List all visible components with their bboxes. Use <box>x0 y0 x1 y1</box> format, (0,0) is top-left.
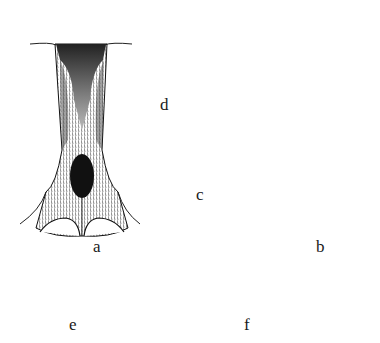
figure-a <box>20 43 140 236</box>
morphology-plate <box>0 0 380 343</box>
figure-label-d: d <box>160 96 169 113</box>
figure-label-c: c <box>196 186 204 203</box>
figure-label-e: e <box>69 316 77 333</box>
figure-label-a: a <box>93 238 101 255</box>
figure-label-b: b <box>316 238 325 255</box>
figure-label-f: f <box>244 316 250 333</box>
